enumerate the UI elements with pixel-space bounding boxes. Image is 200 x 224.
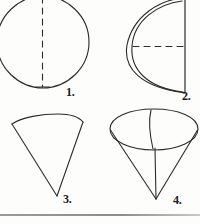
cone-left-slant <box>12 124 57 196</box>
cone4-ellipse-chord <box>150 110 153 149</box>
figure-2-hemisphere <box>126 0 185 93</box>
figure-page: 1. 2. 3. 4. <box>0 0 200 224</box>
figure-4-cone-ellipse <box>110 109 198 199</box>
cone4-axis-line <box>155 148 156 199</box>
figure-1-sphere <box>0 0 89 88</box>
geometry-figures-illustration <box>0 0 200 224</box>
cone-right-slant <box>57 122 83 196</box>
figure-4-label: 4. <box>173 194 181 206</box>
figure-3-cone <box>12 114 83 196</box>
figure-2-label: 2. <box>182 90 190 102</box>
cone4-ellipse-top <box>110 109 198 150</box>
figure-3-label: 3. <box>63 193 71 205</box>
sphere-outline <box>0 0 89 88</box>
bottom-divider <box>0 214 200 216</box>
cone4-left-slant <box>111 130 157 199</box>
cone4-right-slant <box>156 130 198 199</box>
cone-top-arc <box>12 114 83 124</box>
figure-1-label: 1. <box>66 86 74 98</box>
